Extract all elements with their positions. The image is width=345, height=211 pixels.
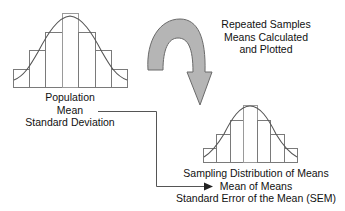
repeat-process-arrow-icon: [148, 19, 212, 105]
mean-of-means-label: Mean of Means: [176, 180, 336, 193]
population-histogram: [14, 14, 128, 88]
population-mean-label: Mean: [20, 104, 120, 117]
sampling-distribution-label: Sampling Distribution of Means Mean of M…: [176, 167, 336, 205]
process-label: Repeated Samples Means Calculated and Pl…: [212, 18, 320, 56]
process-line-3: and Plotted: [212, 43, 320, 56]
sampling-title: Sampling Distribution of Means: [176, 167, 336, 180]
population-title: Population: [20, 91, 120, 104]
sampling-histogram: [204, 106, 298, 163]
population-label: Population Mean Standard Deviation: [20, 91, 120, 129]
process-line-1: Repeated Samples: [212, 18, 320, 31]
sem-label: Standard Error of the Mean (SEM): [176, 192, 336, 205]
population-sd-label: Standard Deviation: [20, 116, 120, 129]
process-line-2: Means Calculated: [212, 31, 320, 44]
